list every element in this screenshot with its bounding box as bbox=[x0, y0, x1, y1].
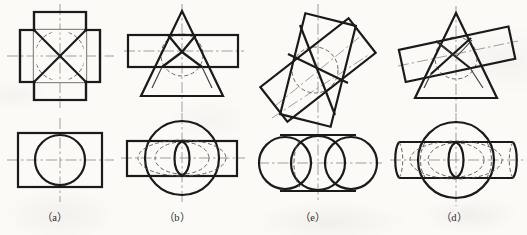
fig-d-top-view bbox=[390, 113, 524, 206]
figure-group-b bbox=[121, 4, 245, 204]
fig-c-intersection-line-1 bbox=[300, 25, 335, 115]
fig-d-front-view bbox=[398, 6, 518, 112]
fig-c-top-view bbox=[258, 125, 382, 202]
fig-b-top-view bbox=[121, 113, 245, 204]
fig-b-intersection-edge-right bbox=[182, 52, 202, 67]
figure-group-d bbox=[390, 6, 524, 206]
fig-b-apex-edge-right bbox=[182, 35, 196, 52]
fig-c-hidden-circle bbox=[292, 47, 338, 93]
fig-d-cylinder-rect bbox=[399, 26, 515, 82]
fig-b-front-view bbox=[124, 4, 244, 112]
fig-b-top-lens-left-arc bbox=[175, 141, 183, 176]
fig-c-front-view bbox=[260, 4, 375, 127]
fig-a-front-view bbox=[7, 4, 114, 108]
orthographic-projection-drawing: .ol { fill:none; stroke:#1a1a1a; stroke-… bbox=[0, 0, 527, 235]
fig-a-top-view bbox=[7, 118, 114, 202]
fig-b-top-lens-right-arc bbox=[182, 141, 190, 176]
fig-d-cone-gen-right bbox=[470, 68, 483, 88]
figure-caption-c: （e） bbox=[300, 209, 326, 224]
figure-group-c bbox=[258, 4, 382, 202]
figure-caption-a: （a） bbox=[42, 209, 68, 224]
fig-d-intersection-curve-left bbox=[437, 42, 456, 57]
drawing-plate: .ol { fill:none; stroke:#1a1a1a; stroke-… bbox=[0, 0, 527, 235]
fig-d-cylinder bbox=[399, 26, 515, 82]
fig-b-intersection-edge-left bbox=[162, 52, 182, 67]
figure-caption-d: （d） bbox=[441, 209, 467, 224]
figure-group-a bbox=[7, 4, 114, 202]
figure-caption-b: （b） bbox=[164, 209, 190, 224]
fig-b-apex-edge-left bbox=[168, 35, 182, 52]
